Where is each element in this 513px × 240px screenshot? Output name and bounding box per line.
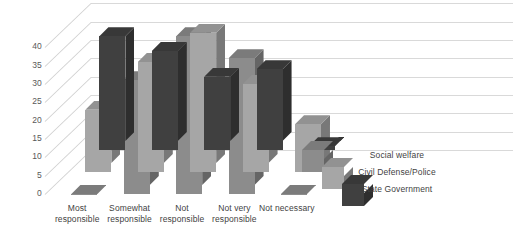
depth-line-10 (45, 113, 92, 158)
depth-line-5 (45, 132, 92, 177)
depth-line-40 (45, 3, 92, 48)
bar-state-government-not-responsible (204, 77, 230, 150)
legend-cube-front-face (302, 150, 324, 172)
gridline-40 (91, 3, 513, 4)
gridline-30 (91, 40, 513, 41)
bar-front-face (204, 77, 230, 150)
legend-label-state-government: State Government (362, 184, 433, 194)
bar-social-welfare-not-necessary (281, 194, 307, 195)
bar-top-face (71, 185, 106, 194)
bar-top-face (281, 185, 316, 194)
bar-front-face (71, 194, 97, 195)
bar-front-face (281, 194, 307, 195)
bar-front-face (152, 51, 178, 150)
legend-cube-top-face (342, 175, 373, 184)
bar-social-welfare-most-responsible (71, 194, 97, 195)
bar-state-government-not-very-responsible (257, 69, 283, 150)
bar-side-face (178, 42, 187, 141)
bar-side-face (283, 60, 292, 141)
y-axis-tick-label: 5 (37, 171, 42, 180)
category-label-not-necessary: Not necessary (252, 203, 322, 214)
category-label-line: responsible (199, 214, 269, 225)
legend-cube-top-face (302, 141, 333, 150)
y-axis-tick-label: 30 (32, 79, 42, 88)
legend-cube-top-face (322, 158, 353, 167)
y-axis-tick-label: 35 (32, 61, 42, 70)
y-axis-tick-label: 40 (32, 42, 42, 51)
y-axis-tick-label: 25 (32, 97, 42, 106)
y-axis-tick-label: 10 (32, 152, 42, 161)
y-axis-tick-label: 15 (32, 134, 42, 143)
bar-state-government-somewhat-responsible (152, 51, 178, 150)
y-axis-tick-label: 0 (37, 189, 42, 198)
depth-line-20 (45, 77, 92, 122)
depth-line-35 (45, 22, 92, 67)
bar-side-face (125, 27, 134, 141)
legend-label-social-welfare: Social welfare (370, 150, 424, 160)
depth-line-25 (45, 58, 92, 103)
y-axis-tick-label: 20 (32, 116, 42, 125)
bar-side-face (230, 68, 239, 141)
legend-cube-front-face (342, 184, 364, 206)
bar-front-face (99, 36, 125, 150)
bar-state-government-most-responsible (99, 36, 125, 150)
category-label-line: Not necessary (252, 203, 322, 214)
legend-cube-front-face (322, 167, 344, 189)
bar-front-face (257, 69, 283, 150)
gridline-35 (91, 22, 513, 23)
